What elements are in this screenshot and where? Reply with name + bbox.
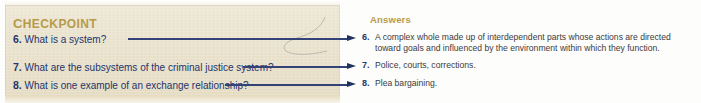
- arrow-shaft: [128, 38, 347, 40]
- arrow-question-8: [225, 81, 356, 88]
- arrow-right-icon: [347, 35, 356, 41]
- panel-bottom-fade: [5, 95, 340, 103]
- arrow-right-icon: [347, 63, 356, 69]
- arrow-question-6: [128, 35, 356, 42]
- arrow-right-icon: [347, 81, 356, 87]
- checkpoint-question-7: 7. What are the subsystems of the crimin…: [13, 61, 274, 73]
- answer-text-line-2: toward goals and influenced by the envir…: [375, 43, 694, 54]
- answer-number: 7.: [362, 60, 370, 71]
- arrow-question-7: [243, 63, 356, 70]
- checkpoint-question-8: 8. What is one example of an exchange re…: [13, 79, 249, 91]
- question-text: What are the subsystems of the criminal …: [25, 62, 274, 73]
- arrow-shaft: [225, 84, 347, 86]
- answer-number: 8.: [362, 78, 370, 89]
- answer-item-8: 8. Plea bargaining.: [362, 78, 662, 89]
- question-text: What is one example of an exchange relat…: [25, 80, 249, 91]
- checkpoint-question-6: 6. What is a system?: [13, 33, 106, 45]
- question-text: What is a system?: [25, 34, 107, 45]
- answer-text-line-1: Police, courts, corrections.: [375, 60, 662, 71]
- question-number: 6.: [13, 33, 22, 45]
- arrow-shaft: [243, 66, 347, 68]
- answer-item-6: 6. A complex whole made up of interdepen…: [362, 32, 694, 53]
- answer-text-line-1: Plea bargaining.: [375, 78, 662, 89]
- page-title: Checkpoint: [13, 11, 97, 33]
- checkpoint-figure: Checkpoint 6. What is a system? 7. What …: [0, 0, 701, 103]
- answers-heading: Answers: [370, 14, 411, 25]
- answer-item-7: 7. Police, courts, corrections.: [362, 60, 662, 71]
- question-number: 8.: [13, 79, 22, 91]
- question-number: 7.: [13, 61, 22, 73]
- answer-number: 6.: [362, 32, 370, 43]
- answer-text-line-1: A complex whole made up of interdependen…: [375, 32, 694, 43]
